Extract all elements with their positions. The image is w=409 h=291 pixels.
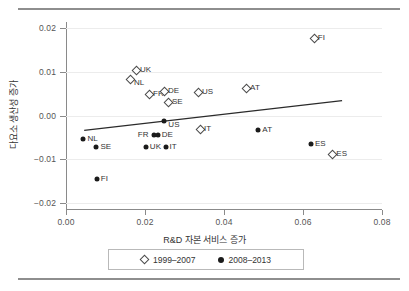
x-tick	[382, 210, 383, 215]
data-point-label: ES	[315, 139, 326, 148]
data-point-label: FI	[318, 33, 325, 42]
chart-figure: 0.020.010.00−0.01−0.02 0.000.020.040.060…	[0, 0, 409, 291]
data-point-label: DE	[162, 130, 173, 139]
open-diamond-icon	[140, 255, 150, 265]
data-point-label: SE	[100, 142, 111, 151]
filled-circle-icon	[94, 177, 99, 182]
y-tick-label: 0.00	[14, 111, 56, 121]
gridline	[66, 28, 382, 29]
data-point-label: US	[202, 87, 213, 96]
y-tick	[60, 72, 66, 73]
y-tick-label: −0.02	[14, 198, 56, 208]
legend-label: 1999–2007	[153, 255, 196, 265]
filled-circle-icon	[163, 145, 168, 150]
x-axis-label: R&D 자본 서비스 증가	[0, 233, 409, 246]
data-point-label: NL	[134, 78, 144, 87]
filled-circle-icon	[94, 144, 99, 149]
top-divider-rule	[18, 8, 400, 10]
legend-item-2008-2013[interactable]: 2008–2013	[218, 255, 272, 265]
legend-item-1999-2007[interactable]: 1999–2007	[141, 255, 196, 265]
gridline	[66, 116, 382, 117]
x-tick	[303, 210, 304, 215]
data-point-label: FR	[138, 130, 149, 139]
filled-circle-icon	[143, 145, 148, 150]
filled-circle-icon	[218, 257, 224, 263]
legend-label: 2008–2013	[229, 255, 272, 265]
y-tick-label: −0.01	[14, 154, 56, 164]
x-tick	[66, 210, 67, 215]
data-point-label: IT	[170, 142, 177, 151]
y-tick-label: 0.02	[14, 23, 56, 33]
x-tick	[224, 210, 225, 215]
filled-circle-icon	[308, 142, 313, 147]
y-tick	[60, 28, 66, 29]
x-tick-label: 0.08	[362, 217, 402, 227]
x-tick-label: 0.04	[204, 217, 244, 227]
chart-legend: 1999–2007 2008–2013	[108, 249, 304, 270]
data-point-label: SE	[172, 97, 183, 106]
x-tick-label: 0.02	[125, 217, 165, 227]
gridline	[66, 72, 382, 73]
data-point-label: US	[168, 120, 179, 129]
gridline	[66, 203, 382, 204]
x-tick	[145, 210, 146, 215]
data-point-label: FI	[101, 174, 108, 183]
filled-circle-icon	[81, 136, 86, 141]
data-point-label: AT	[262, 125, 272, 134]
data-point-label: UK	[140, 65, 151, 74]
data-point-label: NL	[87, 134, 97, 143]
filled-circle-icon	[256, 128, 261, 133]
filled-circle-icon	[162, 118, 167, 123]
y-tick-label: 0.01	[14, 67, 56, 77]
y-axis-label: 다요소 생산성 증가	[7, 60, 20, 170]
y-tick	[60, 159, 66, 160]
gridline	[66, 159, 382, 160]
x-tick-label: 0.06	[283, 217, 323, 227]
y-tick	[60, 203, 66, 204]
filled-circle-icon	[155, 132, 160, 137]
data-point-label: AT	[250, 83, 260, 92]
data-point-label: ES	[336, 149, 347, 158]
x-tick-label: 0.00	[46, 217, 86, 227]
trend-line	[0, 0, 409, 291]
data-point-label: IT	[204, 124, 211, 133]
y-tick	[60, 116, 66, 117]
data-point-label: DE	[168, 86, 179, 95]
bottom-divider-rule	[18, 278, 400, 280]
data-point-label: UK	[150, 142, 161, 151]
